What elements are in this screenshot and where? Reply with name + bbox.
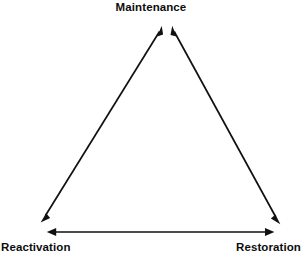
node-label-restoration: Restoration [236, 241, 301, 254]
arrowhead-up [157, 26, 163, 37]
edge-line [174, 32, 275, 217]
edge-line [46, 32, 160, 216]
arrowhead-down-left [41, 213, 51, 222]
triangle-diagram-graphic [0, 0, 302, 261]
arrowhead-down-right [271, 214, 280, 224]
edge-maintenance-restoration [171, 26, 281, 224]
node-label-reactivation: Reactivation [1, 241, 71, 254]
edge-reactivation-restoration [47, 228, 275, 236]
edge-reactivation-maintenance [41, 26, 164, 223]
node-label-maintenance: Maintenance [0, 1, 302, 14]
arrowhead-up [171, 26, 177, 37]
arrowhead-right [265, 228, 274, 236]
arrowhead-left [47, 228, 56, 236]
diagram-canvas: Maintenance Reactivation Restoration [0, 0, 302, 261]
